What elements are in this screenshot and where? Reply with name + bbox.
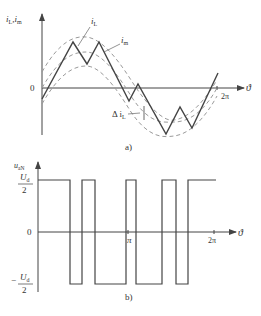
a-caption: a) [125,142,132,152]
a-im-leader [104,44,120,52]
a-im-label: im [121,35,129,46]
a-y-axis-label: iL,im [6,14,22,25]
figure-canvas: iL,im 0 ϑ 2π iL im Δ iL a) uaN Ud 2 0 π [0,0,261,316]
figure-a: iL,im 0 ϑ 2π iL im Δ iL a) [6,14,252,152]
b-neg-level-numerator: Ud [20,272,30,283]
a-iL-leader [78,27,90,46]
b-pos-level-numerator: Ud [20,172,30,183]
a-tick-2pi-label: 2π [221,92,229,101]
a-ripple-label: Δ iL [112,109,126,120]
b-y-axis-label: uaN [14,161,24,171]
figure-b: uaN Ud 2 0 π 2π ϑ − Ud 2 b) [11,161,244,302]
a-origin-label: 0 [30,83,35,93]
b-neg-sign: − [11,275,16,285]
b-origin-label: 0 [27,227,32,237]
b-neg-level-denominator: 2 [22,285,27,295]
b-x-axis-label: ϑ [238,227,244,238]
b-pos-level-denominator: 2 [22,185,27,195]
b-tick-pi-label: π [127,235,132,245]
a-im-curve [42,52,217,122]
a-iL-label: iL [91,16,98,27]
a-ripple-leader [128,113,140,114]
b-tick-2pi-label: 2π [208,236,216,245]
a-x-axis-label: ϑ [246,82,252,93]
b-caption: b) [125,292,133,302]
